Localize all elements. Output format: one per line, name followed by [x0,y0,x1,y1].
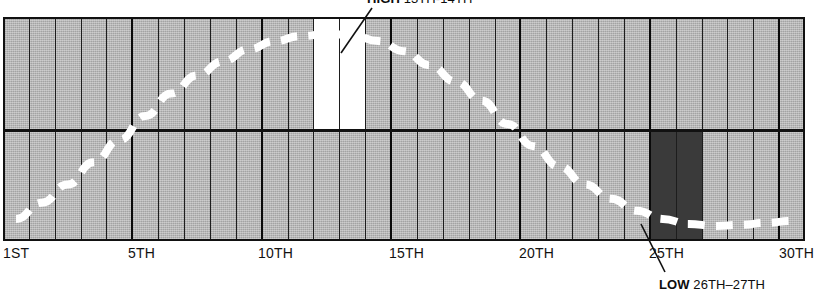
x-tick-label: 10TH [258,245,293,261]
high-annotation-prefix: HIGH [367,0,400,6]
x-tick-label: 1ST [3,245,29,261]
x-tick-label: 30TH [779,245,814,261]
low-annotation-value: 26TH–27TH [693,277,765,292]
x-tick-label: 20TH [519,245,554,261]
chart-plot-area [3,17,805,241]
x-tick-label: 25TH [649,245,684,261]
high-annotation-label: HIGH 13TH-14TH [367,0,472,6]
tide-curve [3,17,805,241]
x-axis-tick-labels: 1ST5TH10TH15TH20TH25TH30TH [0,245,822,267]
tide-chart-figure: HIGH 13TH-14TH LOW 26TH–27TH 1ST5TH10TH1… [0,0,822,300]
low-annotation-label: LOW 26TH–27TH [659,277,765,292]
x-tick-label: 5TH [128,245,155,261]
x-tick-label: 15TH [389,245,424,261]
high-annotation-value: 13TH-14TH [404,0,473,6]
low-annotation-prefix: LOW [659,277,690,292]
plot-background [3,17,805,241]
tide-curve-path [16,34,792,226]
